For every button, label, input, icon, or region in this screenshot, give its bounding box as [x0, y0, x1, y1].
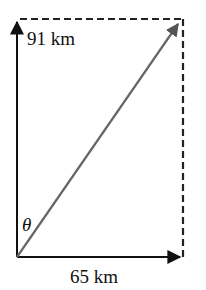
vertical-vector-label: 91 km [27, 28, 75, 49]
angle-theta-label: θ [22, 214, 31, 235]
vector-diagram: 91 km 65 km θ [0, 0, 206, 290]
resultant-vector-arrow [17, 24, 178, 257]
horizontal-vector-label: 65 km [70, 266, 118, 287]
